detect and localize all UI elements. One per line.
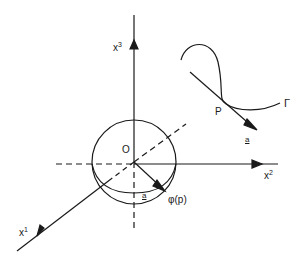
x3-label-sup: 3 (118, 41, 122, 48)
sphere-point-label: φ(p) (168, 195, 187, 205)
x3-arrowhead (130, 40, 138, 49)
x3-axis-label: x3 (113, 43, 122, 53)
sphere-vector-label: a (142, 192, 146, 200)
x2-label-sup: 2 (269, 169, 273, 176)
curve-point-label: P (215, 107, 222, 117)
tangent-arrowhead (244, 119, 257, 130)
tangent-vector-label: a (245, 136, 249, 144)
x1-axis-dashed (111, 162, 134, 179)
x2-axis-label: x2 (264, 171, 273, 181)
x1-axis-label: x1 (19, 228, 28, 238)
diagram-canvas (0, 0, 303, 265)
tangent-line (190, 72, 254, 128)
x1-label-sup: 1 (24, 226, 28, 233)
origin-label: O (122, 145, 130, 155)
x2-arrowhead (252, 160, 262, 168)
curve-name-label: Γ (284, 98, 290, 109)
x1-axis (17, 179, 111, 251)
